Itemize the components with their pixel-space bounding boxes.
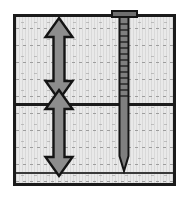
pile-shaft: [120, 15, 129, 171]
lower-layer-thickness-arrow: [46, 90, 73, 176]
annotation-overlay: [0, 0, 188, 201]
pile-cap: [112, 11, 137, 17]
diagram-canvas: [0, 0, 188, 201]
upper-layer-thickness-arrow: [46, 18, 73, 100]
